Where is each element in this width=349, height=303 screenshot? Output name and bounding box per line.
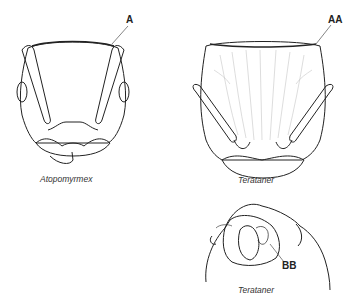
figure-canvas — [0, 0, 349, 303]
atopomyrmex-head-drawing — [17, 42, 129, 164]
label-bb: BB — [282, 260, 296, 271]
label-a: A — [126, 14, 133, 25]
leader-line-a — [112, 26, 128, 44]
terataner-oblique-drawing — [206, 204, 330, 290]
leader-line-aa — [316, 25, 331, 44]
caption-atopomyrmex: Atopomyrmex — [40, 174, 92, 184]
terataner-head-drawing — [193, 42, 333, 179]
label-aa: AA — [328, 14, 342, 25]
caption-terataner-bottom: Terataner — [238, 285, 274, 295]
caption-terataner-top: Terataner — [238, 175, 274, 185]
